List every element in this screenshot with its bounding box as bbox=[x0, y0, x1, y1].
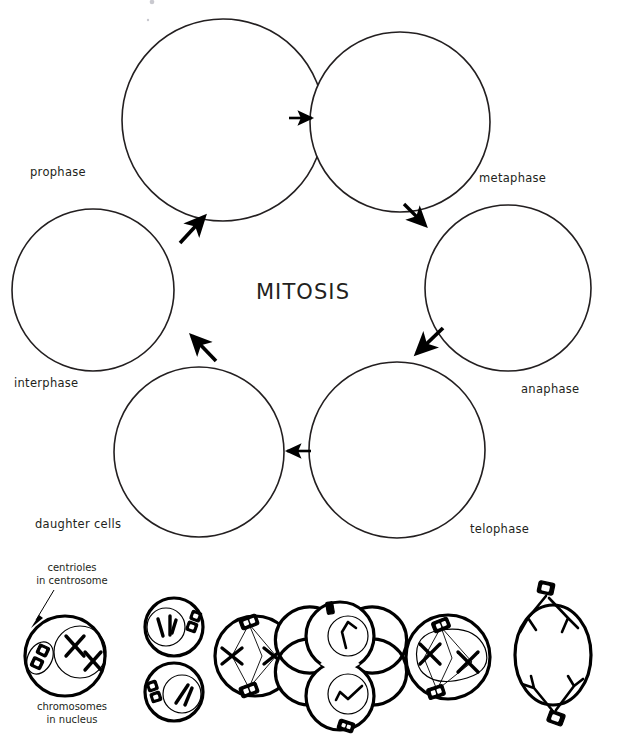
stage-cell-anaphase[interactable] bbox=[406, 615, 490, 700]
cycle-arrow-daughter-to-interphase bbox=[192, 336, 216, 361]
cycle-label-metaphase: metaphase bbox=[479, 171, 546, 185]
callout-chromosomes-line1: chromosomes bbox=[37, 701, 107, 712]
cycle-label-daughter-cells: daughter cells bbox=[35, 517, 121, 531]
cycle-label-telophase: telophase bbox=[470, 522, 529, 536]
cycle-circle-metaphase[interactable] bbox=[310, 32, 490, 212]
centrosome-separation-top bbox=[537, 580, 555, 595]
stage-cell-prophase-b[interactable] bbox=[145, 663, 203, 721]
cycle-circle-interphase[interactable] bbox=[12, 209, 174, 371]
cycle-circle-telophase[interactable] bbox=[309, 362, 485, 538]
stage-cell-telophase[interactable] bbox=[275, 601, 406, 733]
mitosis-diagram-page: prophase metaphase anaphase telophase da… bbox=[0, 0, 617, 739]
cycle-arrow-interphase-to-prophase bbox=[180, 217, 204, 243]
cycle-label-prophase: prophase bbox=[30, 165, 86, 179]
callout-chromosomes-line2: in nucleus bbox=[47, 714, 98, 725]
stage-cell-interphase[interactable] bbox=[21, 616, 106, 696]
cycle-circle-prophase[interactable] bbox=[122, 19, 324, 221]
stage-cell-separation[interactable] bbox=[515, 580, 591, 726]
top-artifact-speck-2 bbox=[147, 19, 149, 21]
centrosome-separation-bottom bbox=[546, 710, 565, 727]
mitosis-cycle-diagram: prophase metaphase anaphase telophase da… bbox=[0, 0, 617, 558]
cycle-arrow-anaphase-to-telophase bbox=[417, 328, 443, 353]
callout-centrioles-line2: in centrosome bbox=[36, 575, 107, 586]
diagram-title: MITOSIS bbox=[256, 280, 350, 304]
cycle-label-anaphase: anaphase bbox=[521, 382, 580, 396]
mitosis-stage-illustrations: centrioles in centrosome chromosomes in … bbox=[0, 558, 617, 739]
top-artifact-speck bbox=[150, 0, 155, 4]
cycle-circle-anaphase[interactable] bbox=[425, 205, 591, 371]
callout-centrioles-line1: centrioles bbox=[47, 562, 96, 573]
stage-cell-prophase-a[interactable] bbox=[145, 598, 203, 656]
centriole-telophase-top bbox=[326, 601, 335, 614]
cycle-circle-daughter-cells[interactable] bbox=[114, 367, 284, 537]
cycle-label-interphase: interphase bbox=[14, 376, 79, 390]
